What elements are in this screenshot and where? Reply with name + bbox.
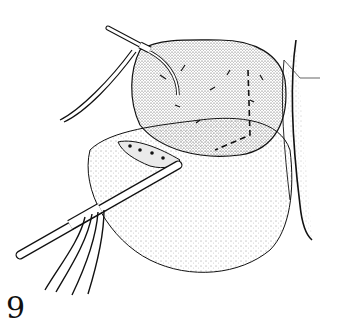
figure-number: 9 xyxy=(6,293,25,323)
tissue-mass-upper xyxy=(132,40,286,156)
surgical-illustration xyxy=(0,0,341,335)
